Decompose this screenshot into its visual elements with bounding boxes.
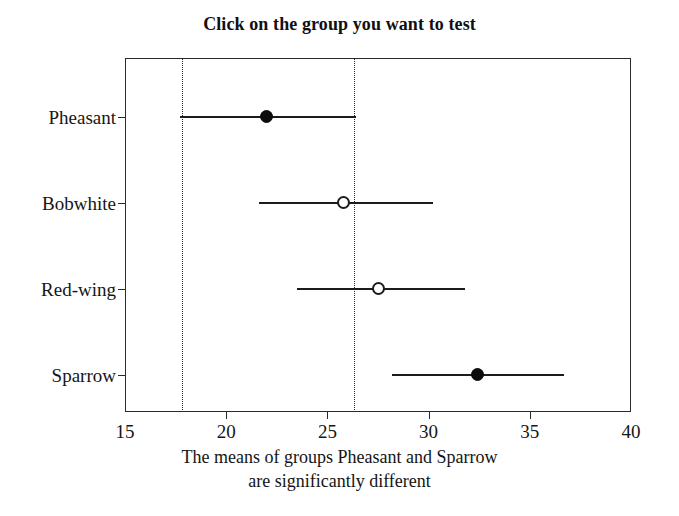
chart-title: Click on the group you want to test: [0, 14, 679, 35]
y-axis-label-bobwhite[interactable]: Bobwhite: [42, 194, 116, 213]
mean-marker[interactable]: [471, 368, 484, 381]
x-axis-tick: [429, 412, 430, 419]
y-axis-label-pheasant[interactable]: Pheasant: [48, 108, 116, 127]
x-axis-tick: [327, 412, 328, 419]
mean-marker[interactable]: [337, 196, 350, 209]
group-row-bobwhite[interactable]: [125, 191, 631, 215]
multiple-comparison-plot: Click on the group you want to test Phea…: [0, 0, 679, 516]
group-row-sparrow[interactable]: [125, 363, 631, 387]
y-axis-label-sparrow[interactable]: Sparrow: [52, 366, 116, 385]
mean-marker[interactable]: [260, 110, 273, 123]
y-axis-tick: [118, 289, 125, 290]
y-axis-label-red-wing[interactable]: Red-wing: [41, 280, 116, 299]
group-row-pheasant[interactable]: [125, 105, 631, 129]
plot-area[interactable]: PheasantBobwhiteRed-wingSparrow152025303…: [125, 58, 631, 412]
significance-caption: The means of groups Pheasant and Sparrow…: [0, 445, 679, 494]
x-axis-tick: [530, 412, 531, 419]
x-axis-label: 25: [318, 422, 337, 441]
y-axis-tick: [118, 117, 125, 118]
x-axis-tick: [226, 412, 227, 419]
caption-line-2: are significantly different: [0, 469, 679, 493]
x-axis-label: 20: [217, 422, 236, 441]
x-axis-label: 30: [419, 422, 438, 441]
x-axis-label: 15: [116, 422, 135, 441]
x-axis-label: 35: [520, 422, 539, 441]
y-axis-tick: [118, 203, 125, 204]
caption-line-1: The means of groups Pheasant and Sparrow: [0, 445, 679, 469]
group-row-red-wing[interactable]: [125, 277, 631, 301]
x-axis-label: 40: [622, 422, 641, 441]
mean-marker[interactable]: [372, 282, 385, 295]
y-axis-tick: [118, 375, 125, 376]
